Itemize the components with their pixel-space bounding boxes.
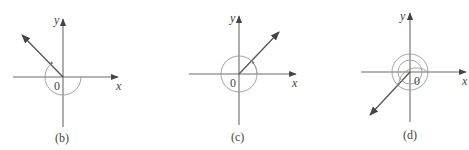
figure-caption: (b) bbox=[55, 131, 69, 145]
y-axis-label: y bbox=[53, 13, 60, 27]
origin-label: 0 bbox=[54, 79, 60, 93]
terminal-ray bbox=[370, 72, 410, 115]
x-axis-label: x bbox=[115, 79, 122, 93]
figure-caption: (c) bbox=[231, 130, 244, 144]
figure-d: y x 0 (d) bbox=[361, 9, 468, 142]
origin-label: 0 bbox=[414, 74, 420, 88]
figure-caption: (d) bbox=[403, 128, 417, 142]
y-axis-label: y bbox=[399, 9, 406, 23]
x-axis-label: x bbox=[461, 74, 468, 88]
angle-diagrams: y x 0 (b) y x 0 (c) y x 0 (d) bbox=[0, 0, 469, 150]
terminal-ray bbox=[239, 32, 279, 74]
x-axis-label: x bbox=[291, 76, 298, 90]
origin-label: 0 bbox=[230, 76, 236, 90]
terminal-ray bbox=[22, 35, 63, 77]
figure-c: y x 0 (c) bbox=[189, 11, 298, 144]
figure-b: y x 0 (b) bbox=[13, 13, 122, 145]
y-axis-label: y bbox=[229, 11, 236, 25]
